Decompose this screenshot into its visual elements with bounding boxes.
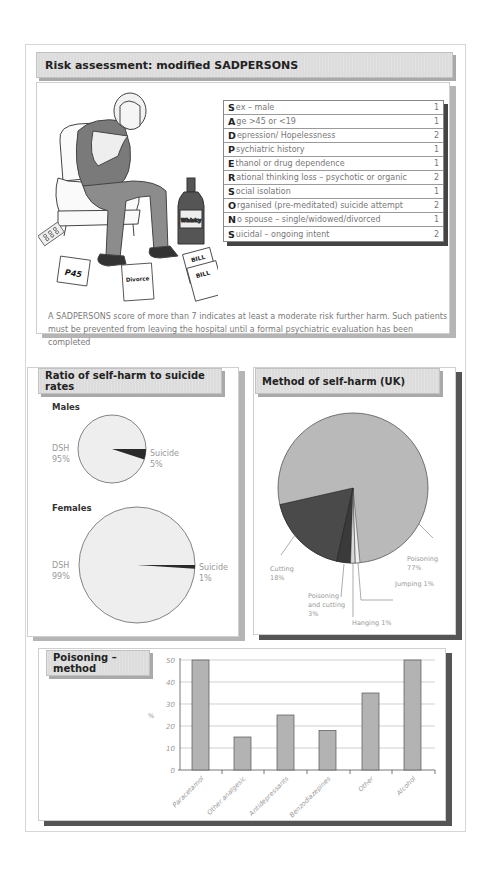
p45-paper-icon: P45 [57,256,90,286]
row-letter: D [228,130,236,141]
svg-text:20: 20 [166,723,175,731]
divorce-paper-icon: Divorce [122,263,154,301]
bar-paracetamol [192,660,209,770]
gridlines [180,660,435,748]
row-letter: S [228,102,235,113]
ratio-header: Ratio of self-harm to suicide rates [38,368,222,394]
bar-other-analgesic [234,737,251,770]
x-tick-labels: Paracetamol Other analgesic Antidepressa… [171,774,418,819]
row-score: 2 [427,173,439,182]
males-suicide-label: Suicide 5% [150,448,179,470]
table-row: O rganised (pre-meditated) suicide attem… [224,199,443,213]
table-row: R ational thinking loss – psychotic or o… [224,171,443,185]
bar-antidepressants [277,715,294,770]
row-text: rganised (pre-meditated) suicide attempt [237,201,427,210]
poisoning-header: Poisoning – method [46,650,150,676]
svg-text:Alcohol: Alcohol [394,775,417,798]
dsh-pct: 95% [52,454,70,465]
bars [192,660,421,770]
poisoning-cutting-label: Poisoning and cutting 3% [308,592,345,619]
svg-text:50: 50 [166,657,175,665]
suicide-label: Suicide [150,448,179,459]
table-row: S ex – male 1 [224,101,443,115]
row-text: epression/ Hopelessness [237,131,427,140]
sadpersons-table: S ex – male 1 A ge >45 or <19 1 D epress… [223,100,444,242]
row-letter: E [228,158,235,169]
cutting-label: Cutting 18% [270,565,294,583]
svg-text:Other analgesic: Other analgesic [205,774,247,816]
man-figure [76,93,178,266]
suicide-pct: 5% [150,459,179,470]
row-score: 1 [427,117,439,126]
svg-text:10: 10 [166,745,175,753]
row-score: 2 [427,201,439,210]
poison-cut-line1: Poisoning [308,592,345,601]
row-score: 1 [427,215,439,224]
whisky-bottle-icon: Whisky [178,178,204,244]
poisoning-pct: 77% [407,564,438,573]
bar-benzodiazepines [319,730,336,770]
males-dsh-label: DSH 95% [52,443,70,465]
row-text: sychiatric history [236,145,427,154]
y-tick-labels: 0 10 20 30 40 50 [166,657,175,775]
row-letter: S [228,229,235,240]
svg-text:0: 0 [171,767,176,775]
poison-cut-pct: 3% [308,610,345,619]
dsh-pct: 99% [52,571,70,582]
svg-text:Other: Other [357,774,377,794]
row-score: 2 [427,131,439,140]
row-text: thanol or drug dependence [236,159,428,168]
poisoning-title: Poisoning – method [53,652,149,674]
y-axis-label: % [148,712,154,720]
row-letter: R [228,172,235,183]
suicide-label: Suicide [199,562,228,573]
hanging-label: Hanging 1% [352,619,392,628]
row-text: ocial isolation [236,187,427,196]
svg-text:40: 40 [166,679,175,687]
row-text: o spouse – single/widowed/divorced [237,215,427,224]
bar-other [362,693,379,770]
x-ticks [222,770,435,774]
table-row: E thanol or drug dependence 1 [224,157,443,171]
despair-illustration: Whisky P45 Divorce BILL BILL [38,86,218,306]
row-text: ational thinking loss – psychotic or org… [236,173,427,182]
row-letter: A [228,116,235,127]
cutting-pct: 18% [270,574,294,583]
poisoning-label: Poisoning 77% [407,555,438,573]
svg-text:Antidepressants: Antidepressants [247,774,291,818]
row-text: ge >45 or <19 [236,117,427,126]
row-score: 1 [427,103,439,112]
jumping-label: Jumping 1% [395,580,434,589]
table-row: P sychiatric history 1 [224,143,443,157]
poison-cut-line2: and cutting [308,601,345,610]
method-header: Method of self-harm (UK) [255,368,440,394]
males-pie-chart [76,413,148,485]
row-score: 1 [427,159,439,168]
svg-text:Benzodiazepines: Benzodiazepines [288,774,333,819]
row-letter: P [228,144,235,155]
poisoning-bar-chart: 0 10 20 30 40 50 % Paracetamol Other ana… [140,650,440,820]
suicide-pct: 1% [199,573,228,584]
method-pie-chart [253,395,456,635]
svg-text:30: 30 [166,701,175,709]
table-row: A ge >45 or <19 1 [224,115,443,129]
table-row: D epression/ Hopelessness 2 [224,129,443,143]
row-text: ex – male [236,103,427,112]
method-title: Method of self-harm (UK) [262,376,405,387]
cutting-text: Cutting [270,565,294,574]
females-dsh-label: DSH 99% [52,560,70,582]
svg-text:Paracetamol: Paracetamol [171,775,206,810]
bar-alcohol [404,660,421,770]
row-score: 2 [427,230,439,239]
row-score: 1 [427,145,439,154]
ratio-title: Ratio of self-harm to suicide rates [45,370,221,392]
sadpersons-note: A SADPERSONS score of more than 7 indica… [48,310,448,349]
table-row: S uicidal – ongoing intent 2 [224,227,443,241]
females-pie-chart [75,503,199,627]
poisoning-text: Poisoning [407,555,438,564]
dsh-label: DSH [52,560,70,571]
females-suicide-label: Suicide 1% [199,562,228,584]
table-row: N o spouse – single/widowed/divorced 1 [224,213,443,227]
row-score: 1 [427,187,439,196]
row-letter: O [228,200,236,211]
